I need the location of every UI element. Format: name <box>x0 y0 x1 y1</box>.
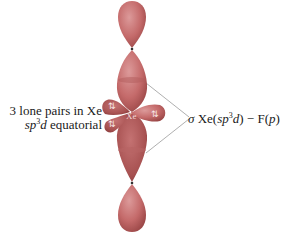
lone-pair-arrows-1: ⇅ <box>108 101 116 111</box>
sigma-bond-label: σ Xe(sp3d) − F(p) <box>188 112 280 126</box>
top-f-lobe <box>118 1 146 48</box>
bottom-f-lobe <box>118 184 146 232</box>
lone-pair-arrows-3: ⇅ <box>151 109 159 119</box>
upper-bond-shade <box>118 77 146 83</box>
xe-atom-label: Xe <box>126 111 137 121</box>
bottom-node <box>131 182 134 185</box>
lone-pairs-label: 3 lone pairs in Xe sp3d equatorial <box>8 104 102 132</box>
lone-pair-arrows-2: ⇅ <box>108 119 116 129</box>
lower-bond-shade <box>118 147 146 153</box>
top-node <box>131 48 134 51</box>
lone-pairs-label-line1: 3 lone pairs in Xe <box>8 104 102 118</box>
lone-pairs-label-line2: sp3d equatorial <box>8 118 102 132</box>
